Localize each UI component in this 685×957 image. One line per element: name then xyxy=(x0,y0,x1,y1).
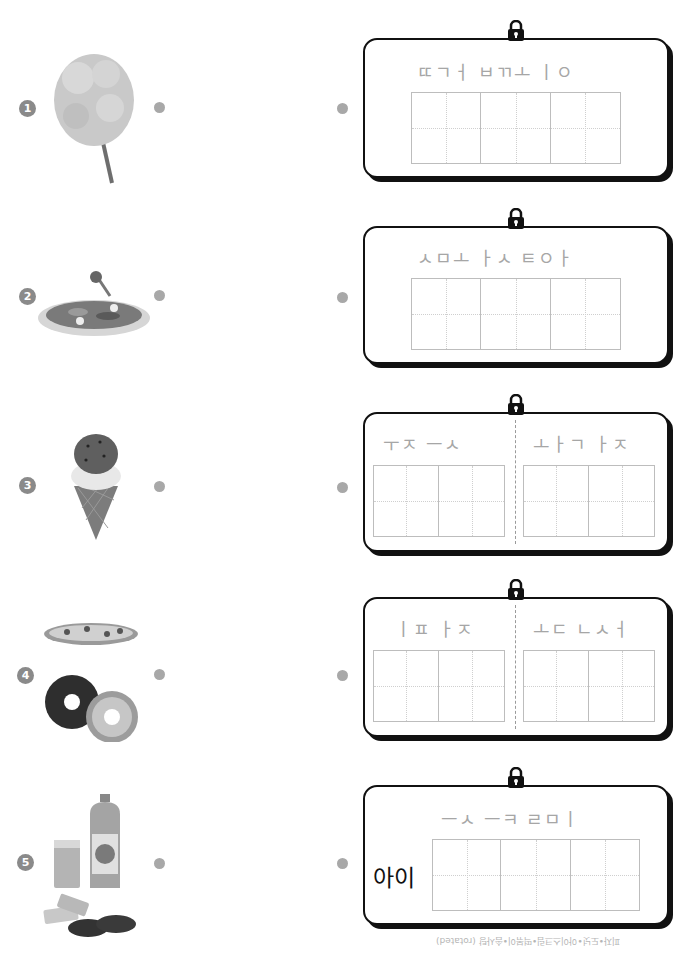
consonant-vowel-hint-left: ㅜㅈ ㅡㅅ xyxy=(383,430,462,456)
match-dot-left[interactable] xyxy=(154,858,165,869)
lock-icon xyxy=(507,208,525,230)
lock-icon xyxy=(507,394,525,416)
tteokbokki-plate-image xyxy=(38,268,153,338)
number-badge: 3 xyxy=(19,477,36,494)
dashed-divider xyxy=(515,605,516,729)
lock-icon xyxy=(507,20,525,42)
number-badge: 4 xyxy=(17,667,34,684)
consonant-vowel-hint-right: ㅗㄷ ㄴㅅㅓ xyxy=(533,615,630,641)
writing-grid-right[interactable] xyxy=(523,465,655,537)
writing-grid[interactable] xyxy=(411,278,621,350)
page-footer: 피자•도넛•아이스크림•떡볶이•솜사탕 (rotated) xyxy=(436,935,620,948)
match-dot-left[interactable] xyxy=(154,669,165,680)
consonant-vowel-hint: ㄸㄱㅓ ㅂㄲㅗ ㅣㅇ xyxy=(417,58,574,84)
match-dot-left[interactable] xyxy=(154,481,165,492)
lock-icon xyxy=(507,767,525,789)
match-dot-right[interactable] xyxy=(337,858,348,869)
answer-card-2: ㅅㅁㅗ ㅏㅅ ㅌㅇㅏ xyxy=(363,226,669,364)
dashed-divider xyxy=(515,420,516,544)
writing-grid-right[interactable] xyxy=(523,650,655,722)
consonant-vowel-hint-right: ㅗㅏㄱ ㅏㅈ xyxy=(533,430,630,456)
writing-grid-left[interactable] xyxy=(373,465,505,537)
number-badge: 5 xyxy=(17,854,34,871)
match-dot-right[interactable] xyxy=(337,482,348,493)
answer-card-1: ㄸㄱㅓ ㅂㄲㅗ ㅣㅇ xyxy=(363,38,669,178)
number-badge: 2 xyxy=(19,288,36,305)
consonant-vowel-hint: ㅡㅅ ㅡㅋ ㄹㅁㅣ xyxy=(441,805,580,831)
answer-card-4: ㅣㅍ ㅏㅈ ㅗㄷ ㄴㅅㅓ xyxy=(363,597,669,737)
match-dot-left[interactable] xyxy=(154,290,165,301)
number-badge: 1 xyxy=(19,100,36,117)
consonant-vowel-hint-left: ㅣㅍ ㅏㅈ xyxy=(395,615,474,641)
match-dot-left[interactable] xyxy=(154,102,165,113)
cotton-candy-image xyxy=(50,38,140,188)
lock-icon xyxy=(507,579,525,601)
match-dot-right[interactable] xyxy=(337,292,348,303)
match-dot-right[interactable] xyxy=(337,103,348,114)
answer-card-5: ㅡㅅ ㅡㅋ ㄹㅁㅣ 아이 xyxy=(363,785,669,925)
answer-card-3: ㅜㅈ ㅡㅅ ㅗㅏㄱ ㅏㅈ xyxy=(363,412,669,552)
writing-grid[interactable] xyxy=(432,839,640,911)
consonant-vowel-hint: ㅅㅁㅗ ㅏㅅ ㅌㅇㅏ xyxy=(417,244,574,270)
pizza-and-donuts-image xyxy=(42,622,142,742)
ice-cream-cone-image xyxy=(68,428,124,543)
given-word-label: 아이 xyxy=(373,859,415,893)
juice-and-cookies-image xyxy=(40,790,140,940)
match-dot-right[interactable] xyxy=(337,670,348,681)
writing-grid[interactable] xyxy=(411,92,621,164)
writing-grid-left[interactable] xyxy=(373,650,505,722)
